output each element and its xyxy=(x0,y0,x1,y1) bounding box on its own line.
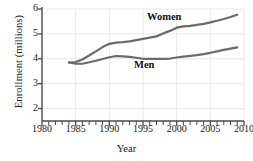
y-tick-label: 6 xyxy=(20,2,38,13)
y-tick-label: 5 xyxy=(20,27,38,38)
enrollment-line-chart: Enrollment (millions) Year 1980198519901… xyxy=(0,0,253,161)
y-tick-label: 3 xyxy=(20,77,38,88)
x-tick-label: 2010 xyxy=(224,123,253,134)
x-axis-title: Year xyxy=(0,143,253,154)
series-label-women: Women xyxy=(147,11,181,22)
y-tick-label: 2 xyxy=(20,102,38,113)
series-label-men: Men xyxy=(134,59,154,70)
y-tick-label: 4 xyxy=(20,52,38,63)
